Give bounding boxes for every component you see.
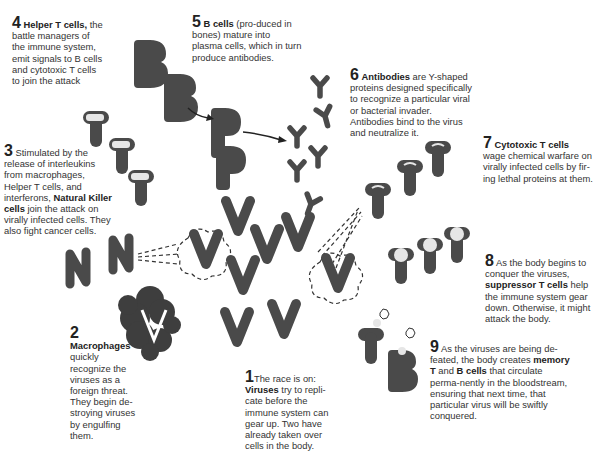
antibody-icon [290, 128, 304, 146]
b-cell-icon [164, 74, 198, 122]
suppressor-t-cell-icon [388, 248, 414, 284]
memory-t-cell-icon [358, 309, 389, 364]
b-cell-icon [134, 40, 168, 88]
caption-suppressor-t-cells: 8 As the body begins to conquer the viru… [485, 254, 593, 324]
caption-memory-cells: 9 As the viruses are being de-feated, th… [430, 340, 570, 421]
virus-icon [225, 312, 249, 342]
virus-icon [255, 229, 279, 259]
antibody-icon [316, 106, 334, 127]
cytotoxic-t-cell-icon [425, 141, 451, 177]
infected-cell-icon [177, 229, 230, 279]
infected-cell-icon [309, 253, 362, 303]
caption-macrophages: 2 Macrophages quickly recognize the viru… [70, 326, 138, 441]
virus-icon [272, 304, 296, 334]
helper-t-cell-icon [83, 111, 109, 147]
virus-icon [226, 201, 250, 231]
caption-cytotoxic-t-cells: 7 Cytotoxic T cells wage chemical warfar… [483, 136, 595, 184]
memory-b-cell-icon [388, 328, 418, 392]
suppressor-t-cell-icon [417, 238, 443, 274]
caption-viruses: 1The race is on: Viruses try to repli-ca… [245, 370, 343, 451]
antibody-icon [290, 162, 304, 180]
antibody-icon [311, 148, 325, 166]
cytotoxic-t-cell-icon [365, 183, 391, 219]
caption-helper-t-cells: 4 Helper T cells, the battle managers of… [12, 16, 104, 86]
arrow-icon [278, 136, 287, 143]
helper-t-cell-icon [109, 138, 135, 174]
arrow-icon [243, 132, 281, 140]
antibody-icon [313, 78, 327, 96]
virus-icon [286, 217, 310, 247]
cytotoxic-t-cell-icon [397, 160, 423, 196]
helper-t-cell-icon [128, 170, 154, 206]
virus-icon [231, 260, 255, 290]
suppressor-t-cell-icon [444, 227, 470, 263]
caption-b-cells: 5 B cells (pro-duced in bones) mature in… [192, 15, 302, 63]
natural-killer-cell-icon [113, 238, 129, 270]
plasma-cell-icon [216, 146, 246, 190]
natural-killer-cell-icon [70, 252, 86, 284]
caption-natural-killer-cells: 3 Stimulated by the release of interleuk… [4, 144, 112, 237]
caption-antibodies: 6 Antibodies are Y-shaped proteins desig… [350, 68, 472, 138]
